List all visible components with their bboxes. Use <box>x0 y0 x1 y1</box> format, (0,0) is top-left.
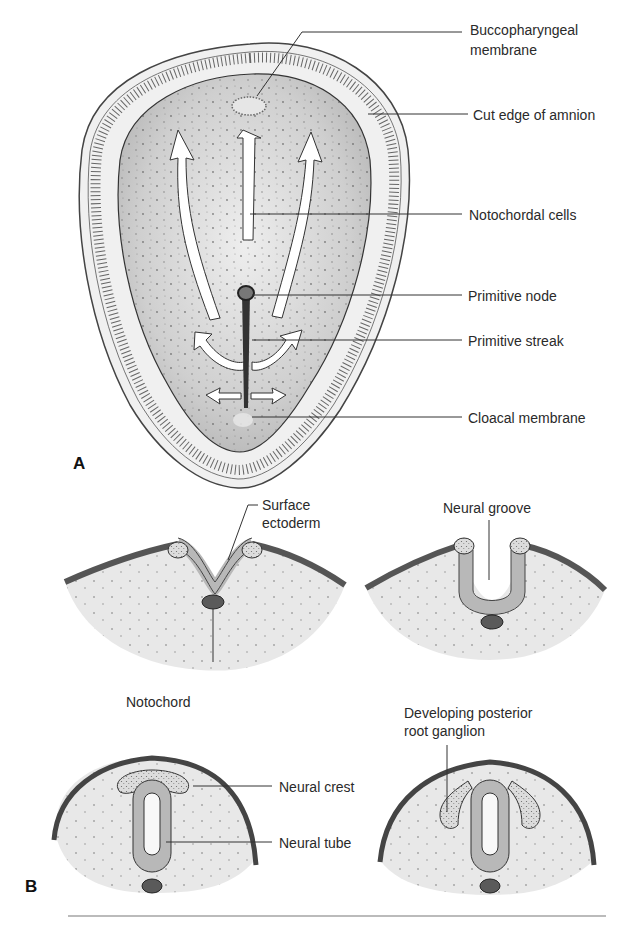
label-neural-crest: Neural crest <box>279 779 354 795</box>
label-cut-edge-of-amnion: Cut edge of amnion <box>473 107 595 123</box>
label-drg-line1: Developing posterior <box>404 705 532 721</box>
cloacal-membrane <box>233 413 253 427</box>
label-drg-line2: root ganglion <box>404 723 485 739</box>
label-buccopharyngeal-line2: membrane <box>470 42 537 58</box>
notochord <box>202 595 224 609</box>
label-neural-groove: Neural groove <box>443 500 531 516</box>
label-notochord: Notochord <box>126 694 191 710</box>
label-cloacal-membrane: Cloacal membrane <box>468 410 586 426</box>
label-neural-tube: Neural tube <box>279 835 351 851</box>
panel-b-stage-2 <box>366 520 605 660</box>
primitive-node <box>238 286 254 300</box>
label-buccopharyngeal-line1: Buccopharyngeal <box>470 22 578 38</box>
label-primitive-streak: Primitive streak <box>468 333 564 349</box>
buccopharyngeal-membrane <box>232 97 266 115</box>
panel-b-letter: B <box>25 877 37 897</box>
label-notochordal-cells: Notochordal cells <box>469 207 576 223</box>
label-surface-ectoderm-line2: ectoderm <box>262 515 320 531</box>
panel-a-letter: A <box>73 454 85 474</box>
label-surface-ectoderm-line1: Surface <box>262 497 310 513</box>
label-primitive-node: Primitive node <box>468 288 557 304</box>
panel-a-embryonic-disc <box>79 32 468 488</box>
panel-b-stage-3 <box>54 757 272 893</box>
panel-b-stage-4 <box>380 745 594 895</box>
